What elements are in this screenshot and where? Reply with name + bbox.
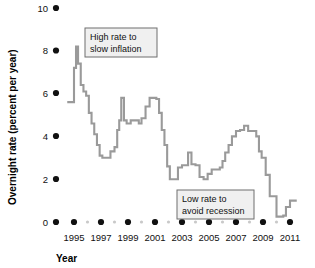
x-tick-label-2003: 2003 (171, 232, 192, 243)
x-tick-dot-2004 (194, 220, 197, 223)
y-tick-dot-10 (53, 5, 59, 11)
x-tick-label-2005: 2005 (198, 232, 219, 243)
x-tick-label-2001: 2001 (144, 232, 165, 243)
chart-svg: 10 8 6 4 2 0 Overnight rate (percent per… (0, 0, 315, 268)
annotation-low-rate: Low rate to avoid recession (177, 190, 254, 219)
y-tick-label-0: 0 (43, 217, 48, 228)
x-tick-dot-1995 (71, 219, 77, 225)
x-axis-major-tick-dots (71, 219, 293, 225)
y-axis-title: Overnight rate (percent per year) (7, 49, 18, 205)
x-tick-label-2009: 2009 (252, 232, 273, 243)
x-tick-label-1997: 1997 (90, 232, 111, 243)
annotation-high-rate: High rate to slow inflation (85, 28, 157, 57)
x-tick-dot-2005 (206, 219, 212, 225)
x-tick-dot-1997 (98, 219, 104, 225)
x-axis-tick-labels: 199519971999200120032005200720092011 (63, 232, 300, 243)
y-tick-dot-8 (53, 47, 59, 53)
y-tick-label-2: 2 (43, 174, 48, 185)
x-tick-dot-2008 (248, 220, 251, 223)
x-tick-dot-2011 (287, 219, 293, 225)
x-tick-dot-2007 (233, 219, 239, 225)
y-tick-label-8: 8 (43, 45, 48, 56)
annotation-low-rate-line1: Low rate to (182, 194, 227, 204)
x-tick-dot-2006 (221, 220, 224, 223)
y-tick-dot-6 (53, 90, 59, 96)
x-tick-dot-1996 (86, 220, 89, 223)
y-tick-dot-0 (53, 219, 59, 225)
y-tick-dot-4 (53, 133, 59, 139)
x-tick-dot-2001 (152, 219, 158, 225)
overnight-rate-chart: 10 8 6 4 2 0 Overnight rate (percent per… (0, 0, 315, 268)
y-axis-tick-dots (53, 5, 59, 225)
y-tick-label-10: 10 (37, 3, 48, 14)
annotation-low-rate-line2: avoid recession (182, 206, 245, 216)
x-tick-dot-1998 (113, 220, 116, 223)
annotation-high-rate-line2: slow inflation (90, 44, 142, 54)
x-tick-label-1999: 1999 (117, 232, 138, 243)
y-tick-label-4: 4 (43, 131, 48, 142)
x-tick-label-1995: 1995 (63, 232, 84, 243)
x-tick-dot-2000 (140, 220, 143, 223)
x-tick-label-2007: 2007 (225, 232, 246, 243)
y-tick-label-6: 6 (43, 88, 48, 99)
x-tick-dot-1999 (125, 219, 131, 225)
x-tick-dot-2003 (179, 219, 185, 225)
annotation-high-rate-line1: High rate to (90, 32, 137, 42)
x-tick-dot-2009 (260, 219, 266, 225)
x-axis-title: Year (56, 253, 77, 264)
x-tick-dot-2010 (275, 220, 278, 223)
x-tick-dot-2002 (167, 220, 170, 223)
y-axis-tick-labels: 10 8 6 4 2 0 (37, 3, 48, 228)
x-tick-label-2011: 2011 (280, 232, 300, 243)
y-tick-dot-2 (53, 176, 59, 182)
